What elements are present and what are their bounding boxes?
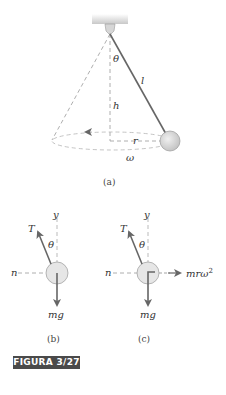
centripetal-base: mrω [186, 268, 208, 279]
centripetal-exponent: 2 [208, 267, 212, 275]
diagram-a: θ l h r ω (a) [52, 14, 180, 187]
conical-pendulum-figure: θ l h r ω (a) T y θ n mg (b) T y θ n mg … [0, 0, 226, 395]
label-weight-c: mg [140, 309, 156, 320]
figure-label: FIGURA 3/27 [13, 356, 80, 369]
label-theta-c: θ [139, 239, 145, 250]
pendulum-rod [110, 34, 166, 134]
ceiling-support [92, 14, 128, 24]
label-n-b: n [11, 267, 17, 278]
label-tension-b: T [28, 223, 36, 234]
label-height: h [113, 100, 119, 111]
pendulum-bob [160, 131, 180, 151]
label-theta-b: θ [48, 239, 54, 250]
caption-a: (a) [103, 177, 115, 187]
label-centripetal-c: mrω2 [186, 267, 213, 279]
diagram-c: T y θ n mg mrω2 (c) [105, 209, 213, 344]
label-tension-c: T [120, 223, 128, 234]
label-omega: ω [126, 152, 134, 163]
caption-b: (b) [47, 334, 60, 344]
cone-left-edge [52, 34, 110, 140]
label-radius: r [133, 135, 139, 146]
label-y-c: y [143, 209, 150, 220]
label-theta-a: θ [113, 53, 119, 64]
pivot-bracket [105, 24, 115, 34]
label-y-b: y [52, 209, 59, 220]
caption-c: (c) [138, 334, 150, 344]
label-n-c: n [105, 267, 111, 278]
label-length: l [141, 75, 144, 86]
label-weight-b: mg [48, 309, 64, 320]
diagram-b: T y θ n mg (b) [11, 209, 68, 344]
